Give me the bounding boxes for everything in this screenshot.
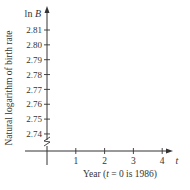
y-tick-label: 2.80 xyxy=(26,40,42,50)
x-axis-arrow-icon xyxy=(166,149,173,154)
x-axis-label: Year (t = 0 is 1986) xyxy=(83,169,157,180)
y-axis-arrow-icon xyxy=(45,6,50,13)
y-tick-label: 2.74 xyxy=(26,129,42,139)
y-tick-label: 2.78 xyxy=(26,70,42,80)
x-axis-symbol: t xyxy=(176,155,179,166)
x-tick-label: 1 xyxy=(73,156,78,166)
x-tick-label: 2 xyxy=(102,156,107,166)
y-tick-label: 2.81 xyxy=(26,25,42,35)
y-tick-label: 2.75 xyxy=(26,114,42,124)
x-tick-label: 4 xyxy=(160,156,165,166)
chart: ln B 2.812.802.792.782.772.762.752.74 t … xyxy=(0,0,190,190)
y-ticks: 2.812.802.792.782.772.762.752.74 xyxy=(26,25,50,139)
y-axis-symbol: ln B xyxy=(25,8,41,19)
y-tick-label: 2.79 xyxy=(26,55,42,65)
y-tick-label: 2.77 xyxy=(26,85,42,95)
x-tick-label: 3 xyxy=(131,156,136,166)
y-tick-label: 2.76 xyxy=(26,99,42,109)
y-axis-label: Natural logarithm of birth rate xyxy=(4,30,14,145)
